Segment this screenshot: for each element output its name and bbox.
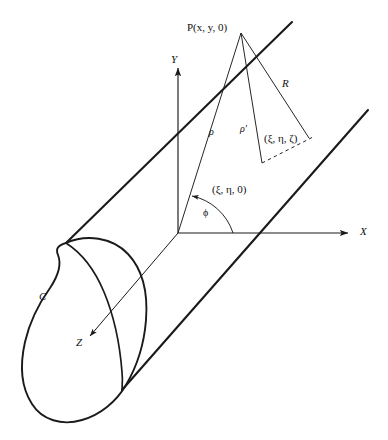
rho-prime-label: ρ' (240, 124, 247, 134)
source-point-3d-label: (ξ, η, ζ) (264, 133, 298, 144)
r-line (241, 33, 309, 138)
rho-label: ρ (209, 127, 214, 137)
diagram-canvas (0, 0, 388, 440)
phi-arc-path (192, 196, 233, 233)
phi-angle-arc (192, 196, 233, 233)
y-axis-label: Y (171, 54, 177, 65)
x-axis-label: X (360, 226, 367, 237)
field-point-label: P(x, y, 0) (187, 22, 227, 33)
curve-c-outline (22, 238, 146, 422)
upper-generator-line (66, 22, 292, 243)
cylinder-generators (66, 22, 368, 390)
rho-prime-line (241, 33, 262, 163)
z-axis-label: Z (76, 337, 82, 348)
curve-c-inner-fold (66, 243, 122, 390)
phi-angle-label: ϕ (203, 208, 208, 218)
z-axis-line (90, 233, 178, 336)
coordinate-axes (90, 68, 348, 336)
source-point-projected-label: (ξ, η, 0) (212, 184, 246, 195)
distance-r-label: R (282, 78, 289, 89)
cross-section-curve-c (22, 238, 146, 422)
contour-c-label: C (39, 291, 46, 302)
figure-container: P(x, y, 0) Y X Z R ρ ρ' (ξ, η, ζ) (ξ, η,… (0, 0, 388, 440)
